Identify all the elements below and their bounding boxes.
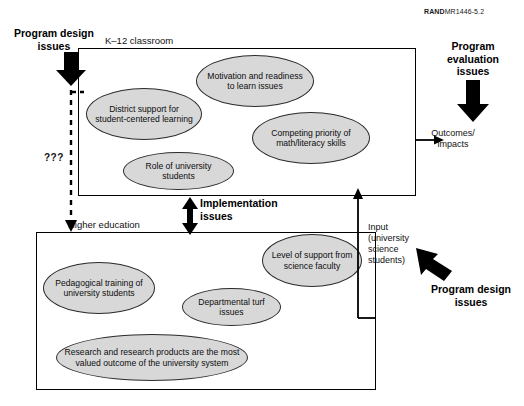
figure-reference-label: MR1446-5.2 (445, 8, 485, 15)
factor-ellipse-competing-priority: Competing priority of math/literacy skil… (252, 112, 370, 164)
annotation-implementation-issues: Implementation issues (200, 197, 310, 222)
annotation-program-design-line2: issues (14, 40, 94, 53)
factor-ellipse-departmental-turf: Departmental turf issues (182, 288, 281, 326)
label-input-university-science-students: Input (university science students) (368, 222, 430, 266)
label-unknown-relationship: ??? (44, 152, 64, 163)
label-outcomes-impacts: Outcomes/ impacts (420, 128, 486, 150)
arrow-implementation-double (182, 197, 198, 235)
figure-credit: RANDMR1446-5.2 (424, 8, 484, 15)
rand-brand-label: RAND (424, 8, 445, 15)
annotation-program-evaluation-issues: Program evaluation issues (432, 40, 514, 78)
diagram-canvas: RANDMR1446-5.2 K–12 classroom Motivation… (0, 0, 524, 406)
factor-ellipse-research-products: Research and research products are the m… (56, 334, 248, 381)
annotation-program-design-issues-right: Program design issues (428, 283, 514, 308)
arrow-program-evaluation (457, 80, 489, 122)
factor-ellipse-district-support: District support for student-centered le… (86, 88, 202, 140)
annotation-program-design-issues-top: Program design issues (14, 27, 94, 52)
annotation-program-design-line1: Program design (14, 27, 94, 39)
factor-ellipse-pedagogical-training: Pedagogical training of university stude… (43, 262, 155, 314)
k12-box-caption: K–12 classroom (105, 35, 173, 46)
factor-ellipse-role-of-university-students: Role of university students (123, 152, 234, 190)
higher-education-box-caption: Higher education (68, 219, 140, 230)
factor-ellipse-motivation: Motivation and readiness to learn issues (196, 55, 314, 107)
factor-ellipse-level-of-support: Level of support from science faculty (262, 234, 362, 287)
